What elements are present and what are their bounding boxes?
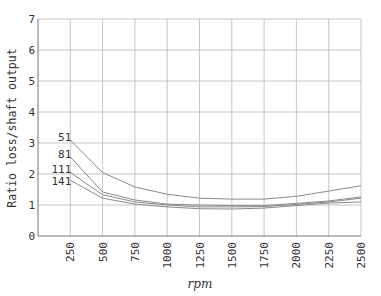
series-labels: 5181111141: [51, 131, 71, 188]
series-line-51: [70, 140, 361, 199]
x-tick-labels: 2505007501000125015001750200022502500: [64, 242, 368, 269]
x-tick-label: 1750: [258, 242, 271, 269]
line-chart: 01234567 2505007501000125015001750200022…: [0, 0, 381, 296]
x-tick-label: 2250: [323, 242, 336, 269]
y-tick-labels: 01234567: [28, 13, 35, 243]
y-axis-label: Ratio loss/shaft output: [5, 48, 19, 207]
x-tick-label: 2500: [355, 242, 368, 269]
x-tick-label: 1000: [161, 242, 174, 269]
y-tick-label: 0: [28, 230, 35, 243]
x-tick-label: 1250: [194, 242, 207, 269]
series-lines: [70, 140, 361, 209]
x-tick-label: 750: [129, 242, 142, 262]
y-tick-label: 4: [28, 106, 35, 119]
y-tick-label: 5: [28, 75, 35, 88]
x-tick-label: 1500: [226, 242, 239, 269]
y-tick-label: 2: [28, 168, 35, 181]
series-label-81: 81: [58, 148, 71, 161]
x-tick-label: 2000: [290, 242, 303, 269]
series-label-141: 141: [51, 175, 71, 188]
y-tick-label: 3: [28, 137, 35, 150]
x-tick-label: 500: [97, 242, 110, 262]
y-tick-label: 1: [28, 199, 35, 212]
y-tick-label: 6: [28, 44, 35, 57]
y-tick-label: 7: [28, 13, 35, 26]
series-label-51: 51: [58, 131, 71, 144]
x-tick-label: 250: [64, 242, 77, 262]
x-axis-label: rpm: [188, 277, 213, 291]
